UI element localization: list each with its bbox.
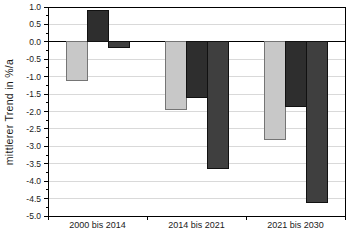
y-tick-label: 0.5 [29, 19, 41, 29]
y-tick-label: -0.5 [26, 54, 41, 64]
y-tick-label: -5.0 [26, 211, 41, 221]
bar-series-3-cat2 [306, 42, 327, 202]
y-tick-label: -3.5 [26, 159, 41, 169]
plot-svg: 1.00.50.0-0.5-1.0-1.5-2.0-2.5-3.0-3.5-4.… [0, 0, 351, 234]
bar-series-2-cat1 [186, 42, 207, 98]
y-tick-label: 0.0 [29, 37, 41, 47]
bar-chart: mittlerer Trend in %/a 1.00.50.0-0.5-1.0… [0, 0, 351, 234]
bar-series-3-cat0 [108, 42, 129, 47]
y-tick-label: 1.0 [29, 2, 41, 12]
bar-series-3-cat1 [207, 42, 228, 169]
y-tick-label: -1.0 [26, 72, 41, 82]
x-category-label: 2014 bis 2021 [168, 220, 225, 230]
y-tick-label: -1.5 [26, 89, 41, 99]
bar-series-2-cat0 [87, 10, 108, 41]
bar-series-1-cat1 [165, 42, 186, 110]
y-tick-label: -4.5 [26, 194, 41, 204]
x-category-label: 2021 bis 2030 [267, 220, 324, 230]
y-tick-label: -3.0 [26, 141, 41, 151]
y-tick-label: -4.0 [26, 176, 41, 186]
y-tick-label: -2.5 [26, 124, 41, 134]
y-tick-label: -2.0 [26, 107, 41, 117]
bar-series-2-cat2 [285, 42, 306, 106]
x-category-label: 2000 bis 2014 [69, 220, 126, 230]
bar-series-1-cat2 [264, 42, 285, 140]
bar-series-1-cat0 [66, 42, 87, 80]
